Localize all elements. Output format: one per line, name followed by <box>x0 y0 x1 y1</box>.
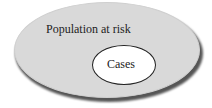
population-at-risk-label: Population at risk <box>46 22 131 37</box>
cases-label: Cases <box>107 57 135 72</box>
